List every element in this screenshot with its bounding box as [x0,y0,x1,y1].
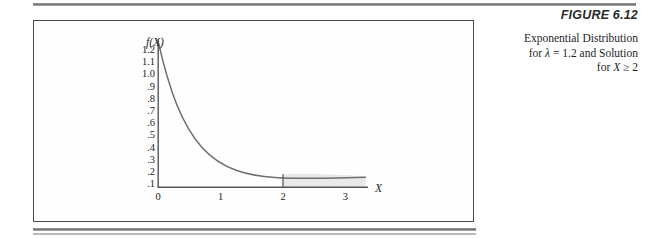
caption-line-3: for X ≥ 2 [486,60,638,75]
x-tick-1: 1 [213,191,229,202]
caption-line-2: for λ = 1.2 and Solution [486,46,638,61]
caption-line-3-post: ≥ 2 [620,61,638,73]
caption-line-3-pre: for [597,61,613,73]
page-rule-bottom-primary [33,228,476,231]
y-axis-title: f(X) [146,36,164,48]
figure-caption-block: FIGURE 6.12 Exponential Distribution for… [486,8,638,75]
x-tick-3: 3 [337,191,353,202]
figure-caption-text: Exponential Distribution for λ = 1.2 and… [486,31,638,75]
figure-number-label: FIGURE 6.12 [486,8,638,22]
x-tick-0: 0 [150,191,166,202]
caption-line-2-pre: for [529,47,545,59]
x-axis-title: X [375,182,382,194]
x-axis-tick-labels: 0 1 2 3 [34,21,475,223]
caption-line-1: Exponential Distribution [486,31,638,46]
caption-line-2-mid: = 1.2 and Solution [550,47,638,59]
page-rule-top [33,3,636,6]
figure-frame: 1.2 1.1 1.0 .9 .8 .7 .6 .5 .4 .3 .2 .1 0… [33,20,474,222]
page-rule-bottom-secondary [33,233,476,235]
x-tick-2: 2 [275,191,291,202]
